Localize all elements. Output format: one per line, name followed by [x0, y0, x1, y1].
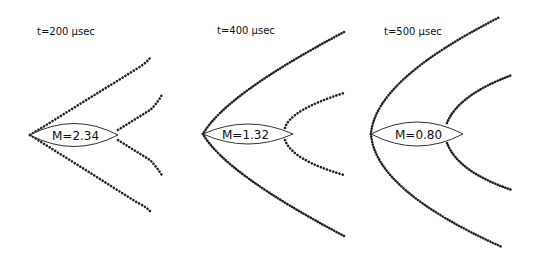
panel-3-mach-label: M=0.80	[395, 128, 442, 142]
panel-1-mach-label: M=2.34	[52, 129, 99, 143]
panel-3: M=0.80	[371, 17, 512, 247]
panel-1-tail-shock-upper	[118, 93, 163, 130]
panel-3-bow-shock-upper	[371, 17, 500, 134]
panel-1: M=2.34	[30, 58, 163, 211]
panel-3-tail-shock-lower	[447, 143, 512, 190]
panel-3-tail-shock-upper	[447, 75, 512, 123]
panel-1-bow-shock-lower	[30, 135, 150, 211]
panel-2: M=1.32	[203, 32, 344, 236]
panel-2-tail-shock-upper	[285, 93, 344, 128]
panel-3-bow-shock-lower	[371, 134, 502, 247]
panel-2-tail-shock-lower	[285, 140, 344, 175]
panel-2-mach-label: M=1.32	[222, 128, 269, 142]
shock-diagram: M=2.34 M=1.32 M=0.80	[0, 0, 539, 267]
panel-2-bow-shock-lower	[203, 134, 344, 236]
panel-2-bow-shock-upper	[203, 32, 344, 134]
panel-1-tail-shock-lower	[118, 140, 163, 177]
panel-1-bow-shock-upper	[30, 58, 150, 135]
